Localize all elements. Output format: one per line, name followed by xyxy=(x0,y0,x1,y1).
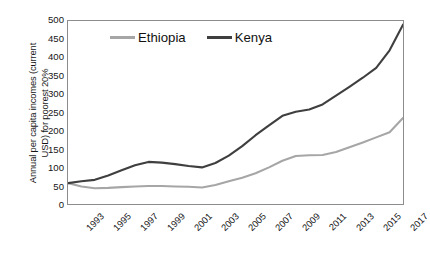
legend-item-kenya[interactable]: Kenya xyxy=(207,31,272,44)
x-axis-tick-label: 2011 xyxy=(327,212,348,233)
x-axis-tick-label: 2005 xyxy=(247,212,268,233)
y-axis-tick-label: 100 xyxy=(30,163,64,173)
x-axis-tick-label: 1999 xyxy=(166,212,187,233)
y-axis-tick-label: 350 xyxy=(30,71,64,81)
x-axis-tick-label: 2007 xyxy=(274,212,295,233)
legend-line-icon xyxy=(110,36,135,39)
y-axis-tick-labels: 500450400350300250200150100500 xyxy=(30,20,64,205)
legend-line-icon xyxy=(207,36,232,39)
y-axis-tick-label: 450 xyxy=(30,34,64,44)
x-axis-tick-labels: 1993199519971999200120032005200720092011… xyxy=(67,205,404,257)
x-axis-tick-label: 1993 xyxy=(85,212,106,233)
plot-area xyxy=(67,20,404,205)
plot-svg xyxy=(68,21,403,204)
y-axis-tick-label: 50 xyxy=(30,182,64,192)
x-axis-tick-label: 2003 xyxy=(220,212,241,233)
x-axis-tick-label: 2015 xyxy=(382,212,403,233)
x-axis-tick-label: 1995 xyxy=(112,212,133,233)
y-axis-tick-label: 0 xyxy=(30,200,64,210)
series-line-ethiopia xyxy=(68,118,403,188)
legend-label: Kenya xyxy=(235,31,272,44)
series-line-kenya xyxy=(68,25,403,183)
x-axis-tick-label: 2017 xyxy=(409,212,430,233)
x-axis-tick-label: 2013 xyxy=(355,212,376,233)
x-axis-tick-label: 2009 xyxy=(301,212,322,233)
chart-legend: EthiopiaKenya xyxy=(110,31,272,44)
y-axis-tick-label: 200 xyxy=(30,126,64,136)
x-axis-tick-label: 1997 xyxy=(139,212,160,233)
y-axis-tick-label: 300 xyxy=(30,89,64,99)
x-axis-tick-label: 2001 xyxy=(193,212,214,233)
legend-label: Ethiopia xyxy=(138,31,186,44)
y-axis-tick-label: 500 xyxy=(30,15,64,25)
y-axis-tick-label: 150 xyxy=(30,145,64,155)
legend-item-ethiopia[interactable]: Ethiopia xyxy=(110,31,186,44)
y-axis-tick-label: 400 xyxy=(30,52,64,62)
y-axis-tick-label: 250 xyxy=(30,108,64,118)
